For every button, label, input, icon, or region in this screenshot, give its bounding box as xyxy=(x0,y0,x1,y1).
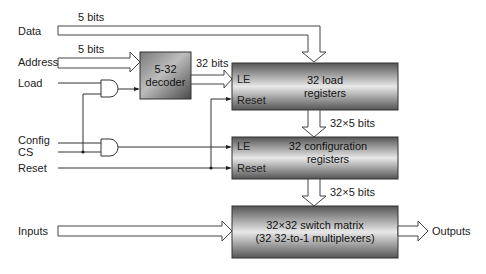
switch-matrix-line1: 32×32 switch matrix xyxy=(232,219,398,232)
load-registers-line1: 32 load xyxy=(270,74,380,87)
config-registers-line1: 32 configuration xyxy=(268,140,388,153)
load-registers-pin-le: LE xyxy=(237,73,250,85)
decoder-label: 5-32 decoder xyxy=(140,63,191,89)
label-data: Data xyxy=(18,25,41,37)
load-registers-line2: registers xyxy=(270,87,380,100)
label-outputs: Outputs xyxy=(432,225,471,237)
label-address: Address xyxy=(18,56,58,68)
label-cs: CS xyxy=(18,146,33,158)
config-to-switch-arrow xyxy=(302,179,326,206)
decoder-line1: 5-32 xyxy=(140,63,191,76)
label-address-width: 5 bits xyxy=(78,43,104,55)
outputs-bus-arrow xyxy=(398,221,428,241)
and-gate-config xyxy=(101,139,118,156)
label-config: Config xyxy=(18,134,50,146)
inputs-bus-arrow xyxy=(58,221,232,241)
load-to-config-arrow xyxy=(302,110,326,137)
switch-matrix-line2: (32 32-to-1 multiplexers) xyxy=(232,232,398,245)
config-registers-label: 32 configuration registers xyxy=(268,140,388,166)
load-registers-label: 32 load registers xyxy=(270,74,380,100)
label-decoder-out-width: 32 bits xyxy=(196,57,228,69)
config-registers-pin-le: LE xyxy=(237,140,250,152)
decoder-output-arrow xyxy=(191,70,232,88)
label-data-width: 5 bits xyxy=(78,11,104,23)
switch-matrix-label: 32×32 switch matrix (32 32-to-1 multiple… xyxy=(232,219,398,245)
label-load: Load xyxy=(18,77,42,89)
and-gate-load xyxy=(101,80,118,97)
address-bus-arrow xyxy=(58,52,140,72)
config-registers-pin-reset: Reset xyxy=(237,162,266,174)
label-load-to-config-width: 32×5 bits xyxy=(330,117,375,129)
label-inputs: Inputs xyxy=(18,225,48,237)
label-config-to-switch-width: 32×5 bits xyxy=(330,186,375,198)
label-reset: Reset xyxy=(18,162,47,174)
decoder-line2: decoder xyxy=(140,76,191,89)
config-registers-line2: registers xyxy=(268,153,388,166)
load-registers-pin-reset: Reset xyxy=(237,94,266,106)
